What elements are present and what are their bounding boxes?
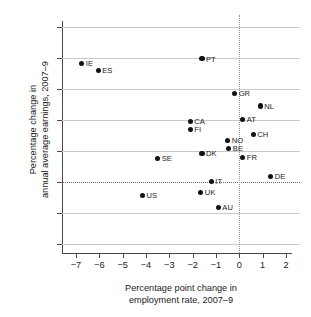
scatter-chart-figure: Percentage change in annual average earn… xyxy=(0,0,311,317)
x-tick--1 xyxy=(216,253,217,258)
data-point-fr xyxy=(240,155,245,160)
gridline-y-2 xyxy=(62,151,300,152)
data-point-no xyxy=(225,138,230,143)
gridline-y--4 xyxy=(62,244,300,245)
data-point-label-be: BE xyxy=(233,145,243,153)
y-tick-10 xyxy=(57,27,62,28)
gridline-y--2 xyxy=(62,213,300,214)
x-tick-label--7: −7 xyxy=(64,261,88,270)
zero-line-horizontal xyxy=(62,182,300,183)
data-point-ie xyxy=(79,61,84,66)
x-tick--5 xyxy=(123,253,124,258)
y-tick-4 xyxy=(57,120,62,121)
data-point-pt xyxy=(199,56,204,61)
data-point-nl xyxy=(258,103,263,108)
data-point-label-it: IT xyxy=(215,178,222,186)
x-tick-2 xyxy=(286,253,287,258)
data-point-au xyxy=(216,205,221,210)
x-tick-1 xyxy=(263,253,264,258)
x-axis-title: Percentage point change in employment ra… xyxy=(60,283,302,306)
data-point-it xyxy=(209,179,214,184)
x-axis-line xyxy=(62,253,292,254)
zero-line-vertical xyxy=(239,15,240,255)
data-point-dk xyxy=(199,151,204,156)
x-tick-label--6: −6 xyxy=(87,261,111,270)
data-point-label-ch: CH xyxy=(257,131,268,139)
y-tick--4 xyxy=(57,244,62,245)
data-point-uk xyxy=(198,190,203,195)
x-tick-label--1: −1 xyxy=(204,261,228,270)
x-tick-label-2: 2 xyxy=(274,261,298,270)
y-tick-2 xyxy=(57,151,62,152)
x-tick--7 xyxy=(76,253,77,258)
data-point-label-at: AT xyxy=(247,116,256,124)
data-point-gr xyxy=(232,91,237,96)
data-point-label-uk: UK xyxy=(205,189,216,197)
x-tick-0 xyxy=(239,253,240,258)
x-tick--6 xyxy=(99,253,100,258)
x-tick--4 xyxy=(146,253,147,258)
gridline-y-10 xyxy=(62,27,300,28)
x-tick-label--3: −3 xyxy=(157,261,181,270)
x-tick-label--5: −5 xyxy=(111,261,135,270)
gridline-y-6 xyxy=(62,89,300,90)
data-point-label-fr: FR xyxy=(247,154,257,162)
x-tick--2 xyxy=(193,253,194,258)
x-tick-label--2: −2 xyxy=(181,261,205,270)
data-point-ch xyxy=(251,132,256,137)
data-point-label-us: US xyxy=(147,192,158,200)
data-point-fi xyxy=(188,127,193,132)
data-point-label-es: ES xyxy=(102,67,112,75)
x-tick-label-1: 1 xyxy=(251,261,275,270)
data-point-us xyxy=(140,193,145,198)
data-point-label-se: SE xyxy=(162,155,172,163)
gridline-y-8 xyxy=(62,58,300,59)
y-tick-8 xyxy=(57,58,62,59)
y-axis-title: Percentage change in annual average earn… xyxy=(28,10,51,250)
data-point-label-au: AU xyxy=(222,204,233,212)
x-tick--3 xyxy=(169,253,170,258)
plot-area: −4−20246810−7−6−5−4−3−2−1012IEESPTGRNLCA… xyxy=(62,21,300,253)
data-point-de xyxy=(268,174,273,179)
y-tick--2 xyxy=(57,213,62,214)
y-axis-line xyxy=(62,21,63,253)
y-tick-0 xyxy=(57,182,62,183)
data-point-at xyxy=(240,117,245,122)
data-point-es xyxy=(96,68,101,73)
data-point-label-fi: FI xyxy=(194,126,201,134)
data-point-se xyxy=(155,156,160,161)
gridline-y-4 xyxy=(62,120,300,121)
data-point-label-pt: PT xyxy=(206,56,216,64)
data-point-label-dk: DK xyxy=(206,150,217,158)
data-point-label-nl: NL xyxy=(264,103,274,111)
data-point-label-ie: IE xyxy=(86,60,93,68)
x-tick-label--4: −4 xyxy=(134,261,158,270)
data-point-ca xyxy=(188,119,193,124)
data-point-label-de: DE xyxy=(275,173,286,181)
data-point-label-gr: GR xyxy=(239,90,250,98)
y-tick-6 xyxy=(57,89,62,90)
x-tick-label-0: 0 xyxy=(227,261,251,270)
